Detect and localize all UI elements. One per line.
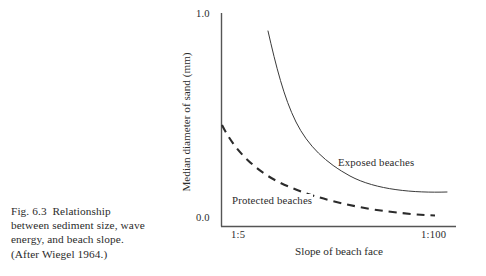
y-axis-title: Median diameter of sand (mm) [180,52,192,191]
x-axis-tick-label-right: 1:100 [421,229,446,240]
x-axis-tick-label-left: 1:5 [231,229,245,240]
figure-container: Fig. 6.3 Relationship between sediment s… [0,0,486,276]
x-axis-title: Slope of beach face [239,245,439,257]
curve-annotation-exposed-beaches: Exposed beaches [337,156,415,168]
y-axis-tick-label-max: 1.0 [196,8,210,19]
y-axis-tick-label-min: 0.0 [196,212,210,223]
curve-annotation-protected-beaches: Protected beaches [231,194,313,206]
